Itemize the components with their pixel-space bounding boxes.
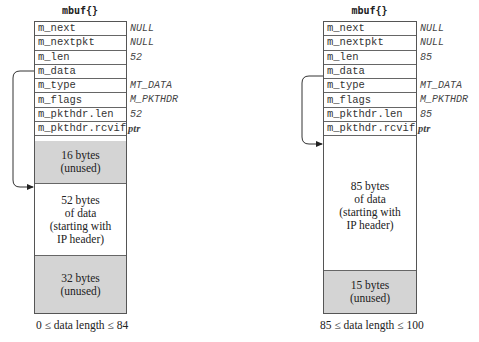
left-m-data-arrow [13, 71, 34, 187]
right-m-data-arrow [302, 76, 323, 144]
m-data-pointer-arrows [0, 0, 479, 342]
